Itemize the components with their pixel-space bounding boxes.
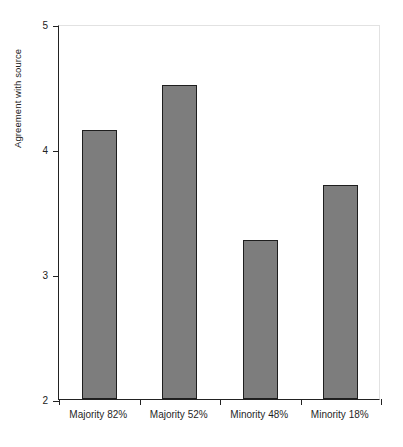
x-axis-tick <box>301 399 302 405</box>
x-axis-tick <box>59 399 60 405</box>
x-axis-tick <box>220 399 221 405</box>
y-axis-tick-label: 4 <box>42 145 48 157</box>
x-axis-category-label: Majority 82% <box>58 408 139 421</box>
y-axis-tick-label: 3 <box>42 270 48 282</box>
bar <box>323 185 358 399</box>
y-axis-tick-label: 5 <box>42 20 48 32</box>
y-axis-title: Agreement with source <box>12 0 23 148</box>
y-axis-tick-label: 2 <box>42 395 48 407</box>
y-axis-tick: 3 <box>53 276 59 277</box>
plot-area: 2345 <box>58 25 380 400</box>
x-axis-category-label: Majority 52% <box>139 408 220 421</box>
x-axis-category-label: Minority 18% <box>300 408 381 421</box>
x-axis-category-label: Minority 48% <box>219 408 300 421</box>
bar <box>162 85 197 399</box>
bar <box>243 240 278 399</box>
bar <box>82 130 117 399</box>
bar-chart: Agreement with source 2345 Majority 82%M… <box>0 0 403 447</box>
x-axis-tick <box>381 399 382 405</box>
y-axis-tick: 5 <box>53 26 59 27</box>
x-axis-tick <box>140 399 141 405</box>
y-axis-tick: 4 <box>53 151 59 152</box>
